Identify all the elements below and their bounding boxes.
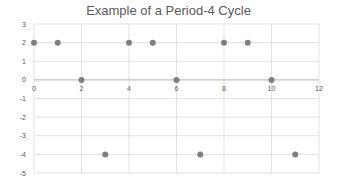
x-tick-label: 2 [80,85,84,92]
data-point [292,151,298,157]
data-point [102,151,108,157]
x-axis-tick-labels: 024681012 [32,85,323,92]
data-point [55,40,61,46]
data-point [269,77,275,83]
x-tick-label: 0 [32,85,36,92]
scatter-plot: 3210-1-2-3-4-5 024681012 [0,0,337,187]
y-tick-label: 1 [22,58,26,65]
data-point [174,77,180,83]
data-point [31,40,37,46]
y-tick-label: -4 [20,151,26,158]
gridlines [34,24,319,173]
data-point [221,40,227,46]
data-point [150,40,156,46]
y-tick-label: -2 [20,114,26,121]
x-tick-label: 6 [175,85,179,92]
y-axis-tick-labels: 3210-1-2-3-4-5 [20,21,26,177]
x-tick-label: 12 [315,85,323,92]
y-tick-label: -1 [20,95,26,102]
x-tick-label: 4 [127,85,131,92]
y-tick-label: 0 [22,76,26,83]
x-tick-label: 10 [268,85,276,92]
data-point [79,77,85,83]
data-point [197,151,203,157]
y-tick-label: -3 [20,132,26,139]
x-tick-label: 8 [222,85,226,92]
y-tick-label: -5 [20,170,26,177]
data-point [245,40,251,46]
data-point [126,40,132,46]
y-tick-label: 2 [22,39,26,46]
y-tick-label: 3 [22,21,26,28]
